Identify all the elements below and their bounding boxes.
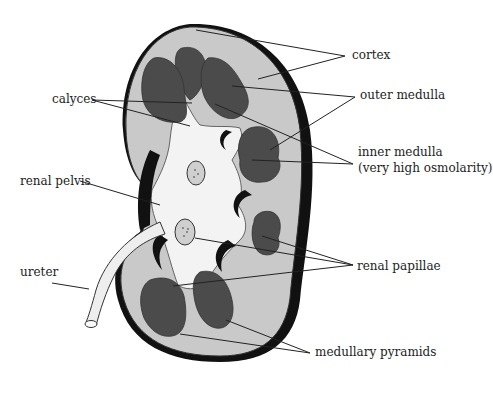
label-inner-medulla: inner medulla [358,145,443,159]
label-cortex: cortex [352,48,390,62]
label-outer-medulla: outer medulla [360,88,445,102]
label-medullary-pyramids: medullary pyramids [315,345,436,359]
label-inner-medulla-note: (very high osmolarity) [358,161,493,175]
vessel-section [187,161,205,185]
label-renal-papillae: renal papillae [357,259,441,273]
vessel-section [175,219,195,245]
ureter-opening [85,321,97,328]
label-calyces: calyces [52,92,96,106]
label-ureter: ureter [20,265,58,279]
label-renal-pelvis: renal pelvis [20,174,91,188]
